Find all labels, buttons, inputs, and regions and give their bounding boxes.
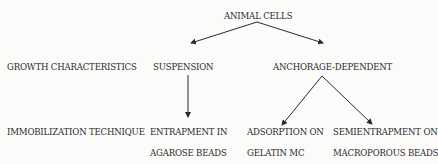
node-semientrapment-line2: MACROPOROUS BEADS: [333, 148, 438, 158]
arrow-anchorage-to-semientrapment: [322, 76, 372, 124]
arrow-anchorage-to-adsorption: [282, 76, 322, 125]
node-semientrapment-line1: SEMIENTRAPMENT ON: [333, 127, 438, 137]
row-label-immobilization-technique: IMMOBILIZATION TECHNIQUE: [7, 127, 145, 137]
node-entrapment-line2: AGAROSE BEADS: [150, 148, 227, 158]
row-label-growth-characteristics: GROWTH CHARACTERISTICS: [7, 62, 137, 72]
arrow-root-to-anchorage: [257, 22, 323, 43]
node-adsorption-line1: ADSORPTION ON: [247, 127, 324, 137]
node-anchorage-dependent: ANCHORAGE-DEPENDENT: [273, 62, 392, 72]
node-adsorption-line2: GELATIN MC: [247, 148, 304, 158]
root-node-animal-cells: ANIMAL CELLS: [224, 11, 292, 21]
node-entrapment-line1: ENTRAPMENT IN: [150, 127, 227, 137]
node-suspension: SUSPENSION: [153, 62, 213, 72]
arrow-root-to-suspension: [191, 22, 257, 43]
